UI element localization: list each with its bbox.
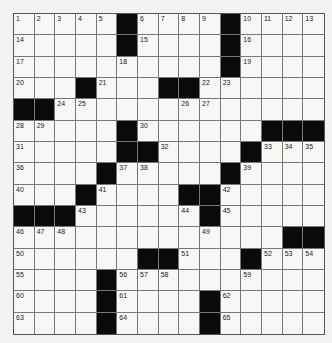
grid-cell[interactable]: 24 bbox=[55, 99, 76, 120]
grid-cell[interactable] bbox=[303, 313, 324, 334]
grid-cell[interactable] bbox=[76, 249, 97, 270]
grid-cell[interactable] bbox=[221, 121, 242, 142]
grid-cell[interactable] bbox=[241, 78, 262, 99]
grid-cell[interactable] bbox=[283, 291, 304, 312]
grid-cell[interactable] bbox=[262, 313, 283, 334]
grid-cell[interactable] bbox=[262, 35, 283, 56]
grid-cell[interactable] bbox=[262, 206, 283, 227]
grid-cell[interactable]: 22 bbox=[200, 78, 221, 99]
grid-cell[interactable] bbox=[117, 78, 138, 99]
grid-cell[interactable] bbox=[55, 57, 76, 78]
grid-cell[interactable]: 45 bbox=[221, 206, 242, 227]
grid-cell[interactable] bbox=[241, 313, 262, 334]
grid-cell[interactable] bbox=[262, 291, 283, 312]
grid-cell[interactable] bbox=[283, 163, 304, 184]
grid-cell[interactable]: 58 bbox=[159, 270, 180, 291]
grid-cell[interactable] bbox=[55, 313, 76, 334]
grid-cell[interactable] bbox=[179, 121, 200, 142]
grid-cell[interactable] bbox=[200, 142, 221, 163]
grid-cell[interactable] bbox=[262, 227, 283, 248]
grid-cell[interactable] bbox=[97, 142, 118, 163]
grid-cell[interactable]: 59 bbox=[241, 270, 262, 291]
grid-cell[interactable]: 20 bbox=[14, 78, 35, 99]
grid-cell[interactable]: 53 bbox=[283, 249, 304, 270]
grid-cell[interactable]: 62 bbox=[221, 291, 242, 312]
grid-cell[interactable] bbox=[117, 206, 138, 227]
grid-cell[interactable] bbox=[303, 291, 324, 312]
grid-cell[interactable] bbox=[159, 35, 180, 56]
grid-cell[interactable]: 27 bbox=[200, 99, 221, 120]
grid-cell[interactable] bbox=[97, 35, 118, 56]
grid-cell[interactable] bbox=[138, 313, 159, 334]
grid-cell[interactable] bbox=[179, 35, 200, 56]
grid-cell[interactable] bbox=[159, 291, 180, 312]
grid-cell[interactable] bbox=[221, 99, 242, 120]
grid-cell[interactable]: 55 bbox=[14, 270, 35, 291]
grid-cell[interactable] bbox=[179, 163, 200, 184]
grid-cell[interactable] bbox=[303, 185, 324, 206]
grid-cell[interactable] bbox=[221, 227, 242, 248]
grid-cell[interactable] bbox=[159, 121, 180, 142]
grid-cell[interactable] bbox=[138, 78, 159, 99]
grid-cell[interactable] bbox=[159, 206, 180, 227]
grid-cell[interactable] bbox=[35, 291, 56, 312]
grid-cell[interactable]: 11 bbox=[262, 14, 283, 35]
grid-cell[interactable] bbox=[55, 163, 76, 184]
grid-cell[interactable] bbox=[35, 35, 56, 56]
grid-cell[interactable]: 14 bbox=[14, 35, 35, 56]
grid-cell[interactable]: 12 bbox=[283, 14, 304, 35]
grid-cell[interactable]: 38 bbox=[138, 163, 159, 184]
grid-cell[interactable]: 39 bbox=[241, 163, 262, 184]
grid-cell[interactable] bbox=[138, 206, 159, 227]
grid-cell[interactable] bbox=[35, 185, 56, 206]
grid-cell[interactable] bbox=[200, 57, 221, 78]
grid-cell[interactable]: 64 bbox=[117, 313, 138, 334]
grid-cell[interactable] bbox=[159, 99, 180, 120]
grid-cell[interactable] bbox=[262, 99, 283, 120]
grid-cell[interactable]: 65 bbox=[221, 313, 242, 334]
grid-cell[interactable] bbox=[283, 78, 304, 99]
grid-cell[interactable]: 19 bbox=[241, 57, 262, 78]
grid-cell[interactable]: 16 bbox=[241, 35, 262, 56]
grid-cell[interactable] bbox=[76, 142, 97, 163]
grid-cell[interactable] bbox=[241, 206, 262, 227]
grid-cell[interactable] bbox=[283, 206, 304, 227]
grid-cell[interactable] bbox=[179, 142, 200, 163]
grid-cell[interactable] bbox=[76, 291, 97, 312]
grid-cell[interactable]: 29 bbox=[35, 121, 56, 142]
grid-cell[interactable] bbox=[283, 313, 304, 334]
grid-cell[interactable] bbox=[159, 185, 180, 206]
grid-cell[interactable] bbox=[221, 249, 242, 270]
grid-cell[interactable]: 50 bbox=[14, 249, 35, 270]
grid-cell[interactable] bbox=[303, 78, 324, 99]
grid-cell[interactable]: 36 bbox=[14, 163, 35, 184]
grid-cell[interactable] bbox=[303, 163, 324, 184]
grid-cell[interactable] bbox=[262, 57, 283, 78]
grid-cell[interactable]: 15 bbox=[138, 35, 159, 56]
grid-cell[interactable] bbox=[241, 227, 262, 248]
grid-cell[interactable]: 17 bbox=[14, 57, 35, 78]
grid-cell[interactable] bbox=[241, 185, 262, 206]
grid-cell[interactable]: 54 bbox=[303, 249, 324, 270]
grid-cell[interactable] bbox=[159, 227, 180, 248]
grid-cell[interactable]: 21 bbox=[97, 78, 118, 99]
grid-cell[interactable]: 18 bbox=[117, 57, 138, 78]
grid-cell[interactable]: 49 bbox=[200, 227, 221, 248]
grid-cell[interactable] bbox=[303, 270, 324, 291]
grid-cell[interactable] bbox=[303, 57, 324, 78]
grid-cell[interactable]: 63 bbox=[14, 313, 35, 334]
grid-cell[interactable]: 56 bbox=[117, 270, 138, 291]
grid-cell[interactable] bbox=[221, 142, 242, 163]
grid-cell[interactable]: 48 bbox=[55, 227, 76, 248]
grid-cell[interactable]: 1 bbox=[14, 14, 35, 35]
grid-cell[interactable]: 10 bbox=[241, 14, 262, 35]
grid-cell[interactable] bbox=[200, 163, 221, 184]
grid-cell[interactable]: 5 bbox=[97, 14, 118, 35]
grid-cell[interactable] bbox=[262, 78, 283, 99]
grid-cell[interactable] bbox=[76, 163, 97, 184]
grid-cell[interactable] bbox=[97, 249, 118, 270]
grid-cell[interactable]: 40 bbox=[14, 185, 35, 206]
grid-cell[interactable]: 2 bbox=[35, 14, 56, 35]
grid-cell[interactable] bbox=[200, 270, 221, 291]
grid-cell[interactable]: 47 bbox=[35, 227, 56, 248]
